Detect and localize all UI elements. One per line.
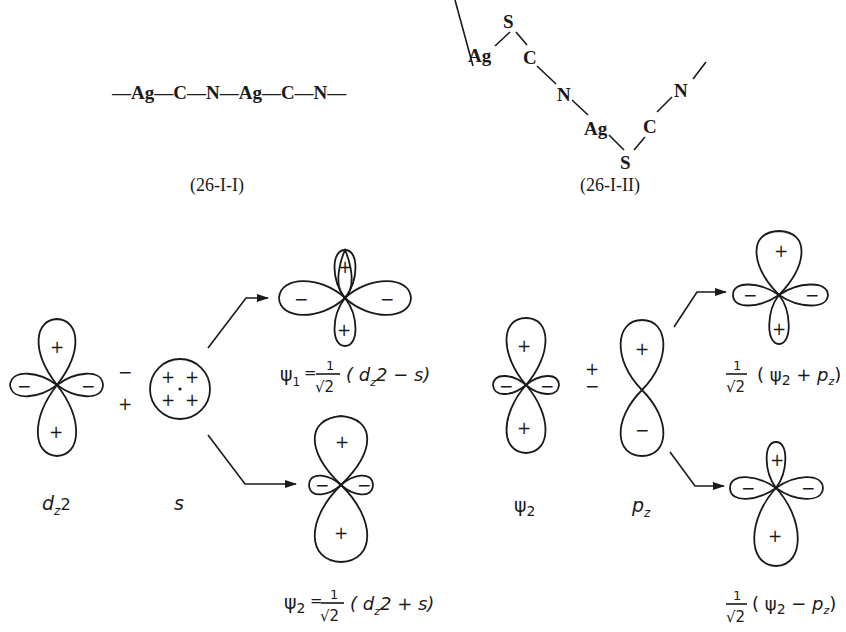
atom-c-1: C [523, 47, 537, 68]
caption-26-I-I: (26-I-I) [190, 175, 244, 196]
svg-text:( ψ2 − pz): ( ψ2 − pz) [752, 593, 836, 617]
sign-minus: − [499, 376, 513, 396]
label-pz: pz [631, 494, 651, 520]
sign-plus: + [334, 523, 348, 543]
svg-text:( dz2 − s): ( dz2 − s) [346, 364, 430, 389]
operator-minus: − [118, 362, 132, 382]
atom-ag-1: Ag [468, 45, 492, 66]
arrow-to-psi2 [208, 435, 296, 484]
sign-minus: − [81, 376, 95, 396]
sign-plus: + [161, 390, 175, 410]
orbital-psi2-hybrid: + + − − [309, 416, 373, 562]
sign-plus: + [337, 320, 351, 340]
sign-plus: + [50, 337, 64, 357]
sign-plus: + [768, 526, 782, 546]
sign-minus: − [315, 475, 329, 495]
atom-n-2: N [674, 80, 688, 101]
sign-minus: − [380, 289, 394, 309]
orbital-psi2-minus-pz: + + − − [730, 442, 823, 566]
sign-plus: + [49, 422, 63, 442]
orbital-psi2-plus-pz: + + − − [733, 231, 828, 344]
svg-text:√2: √2 [315, 378, 334, 396]
svg-text:√2: √2 [726, 378, 745, 396]
sign-minus: − [741, 478, 755, 498]
sign-plus: + [772, 319, 786, 339]
svg-text:1: 1 [733, 358, 741, 373]
atom-ag-2: Ag [584, 118, 608, 139]
sign-plus: + [517, 418, 531, 438]
svg-text:1: 1 [733, 588, 741, 603]
atom-c-2: C [643, 116, 657, 137]
orbital-hybridization-figure: —Ag—C—N—Ag—C—N— (26-I-I) Ag S C N Ag S C… [0, 0, 846, 632]
sign-minus: − [801, 478, 815, 498]
svg-text:ψ2: ψ2 [284, 591, 305, 616]
linear-chain-formula: —Ag—C—N—Ag—C—N— [111, 82, 347, 103]
sign-minus: − [294, 289, 308, 309]
operator-minus: − [585, 376, 599, 396]
sign-plus: + [770, 450, 784, 470]
equation-diff: 1 √2 ( ψ2 − pz) [726, 588, 836, 626]
equation-psi1: ψ1 = 1 √2 ( dz2 − s) [280, 358, 430, 396]
atom-n-1: N [557, 84, 571, 105]
orbital-psi1: + + − − [279, 250, 411, 346]
svg-text:( ψ2 + pz): ( ψ2 + pz) [757, 364, 841, 388]
atom-s-1: S [503, 11, 514, 32]
structure-26-I-I: —Ag—C—N—Ag—C—N— (26-I-I) [111, 82, 347, 196]
operator-plus: + [118, 394, 132, 414]
svg-text:ψ1: ψ1 [280, 363, 300, 389]
sign-minus: − [540, 376, 554, 396]
sign-plus: + [774, 241, 788, 261]
arrow-to-psi1 [208, 298, 268, 348]
sign-minus: − [635, 420, 649, 440]
sign-minus: − [17, 376, 31, 396]
arrow-to-diff [670, 452, 724, 486]
equation-sum: 1 √2 ( ψ2 + pz) [726, 358, 841, 396]
sign-plus: + [185, 367, 199, 387]
sign-plus: + [335, 432, 349, 452]
sign-minus: − [805, 285, 819, 305]
svg-text:1: 1 [330, 587, 338, 602]
sign-plus: + [635, 339, 649, 359]
svg-text:dz2: dz2 [42, 492, 71, 518]
svg-text:√2: √2 [320, 607, 339, 625]
orbital-pz: + − [621, 320, 664, 456]
atom-s-2: S [620, 152, 631, 173]
equation-psi2: ψ2 = 1 √2 ( dz2 + s) [284, 587, 434, 625]
orbital-psi2: + + − − [493, 318, 559, 453]
sign-minus: − [743, 285, 757, 305]
svg-text:( dz2 + s): ( dz2 + s) [350, 593, 434, 618]
orbital-s: + + + + [150, 359, 210, 419]
sign-plus: + [185, 390, 199, 410]
caption-26-I-II: (26-I-II) [580, 175, 640, 196]
sign-plus: + [161, 367, 175, 387]
svg-text:√2: √2 [726, 608, 745, 626]
orbital-dz2: + + − − [10, 319, 103, 456]
sign-minus: − [357, 475, 371, 495]
label-psi2: ψ2 [514, 494, 535, 519]
sign-plus: + [517, 336, 531, 356]
sign-plus: + [338, 257, 352, 277]
structure-26-I-II: Ag S C N Ag S C N (26-I-II) [455, 0, 706, 196]
label-dz2: dz2 [42, 492, 71, 518]
svg-text:1: 1 [326, 358, 334, 373]
arrow-to-sum [674, 292, 726, 327]
label-s: s [174, 492, 184, 514]
